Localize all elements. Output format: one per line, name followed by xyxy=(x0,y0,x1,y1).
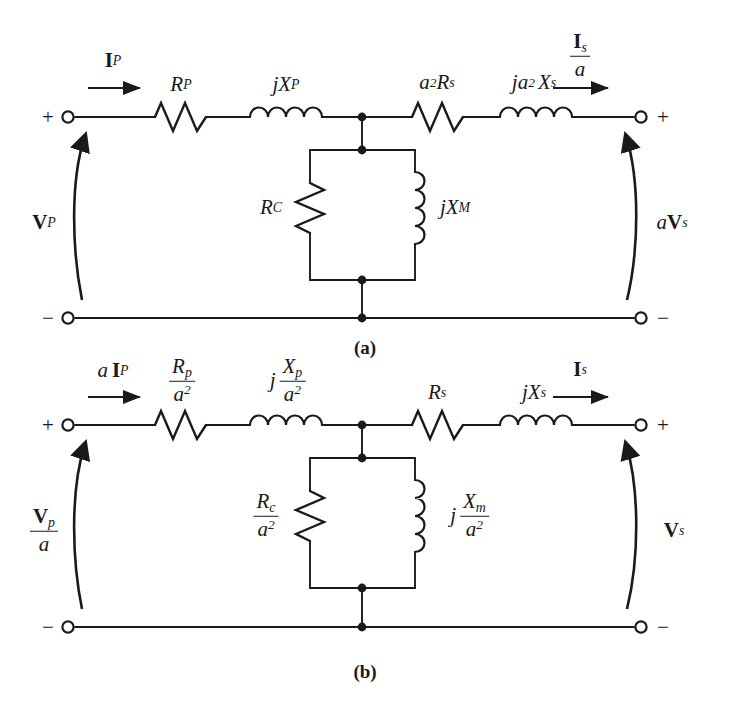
polarity-a-left-top: + xyxy=(42,105,54,130)
polarity-b-left-bottom: − xyxy=(42,615,54,640)
polarity-b-left-top: + xyxy=(42,413,54,438)
polarity-a-right-bottom: − xyxy=(657,306,669,331)
caption-a: (a) xyxy=(354,337,376,359)
label-primary-reactance-referred: j Xp a2 xyxy=(270,355,307,405)
voltage-arrow-b-left xyxy=(74,444,85,609)
circuit-figure: + − + − IP Is a VP aVs RP jXP a2Rs ja2Xs xyxy=(0,0,731,703)
current-label-a-right: Is a xyxy=(569,30,591,80)
circuit-a-wires xyxy=(75,103,634,318)
label-primary-resistance-referred: Rp a2 xyxy=(168,355,196,405)
circuit-b-wires xyxy=(75,411,634,627)
label-primary-resistance: RP xyxy=(170,74,191,95)
label-magnetizing-reactance-referred: j Xm a2 xyxy=(450,490,490,540)
terminal-a-right-bottom xyxy=(635,312,646,323)
circuit-b-terminals xyxy=(62,419,646,632)
terminal-b-right-top xyxy=(635,419,646,430)
label-core-loss-resistance-referred: Rc a2 xyxy=(253,490,280,540)
label-secondary-reactance-referred: ja2Xs xyxy=(512,72,556,93)
terminal-a-right-top xyxy=(635,111,646,122)
terminal-b-right-bottom xyxy=(635,621,646,632)
voltage-arrow-b-right xyxy=(626,444,636,609)
polarity-b-right-bottom: − xyxy=(657,615,669,640)
voltage-label-b-right: Vs xyxy=(664,520,685,541)
polarity-a-right-top: + xyxy=(657,105,669,130)
label-core-loss-resistance: RC xyxy=(260,197,282,218)
polarity-b-right-top: + xyxy=(657,413,669,438)
polarity-a-left-bottom: − xyxy=(42,306,54,331)
label-secondary-resistance: Rs xyxy=(428,382,446,403)
voltage-label-b-left: Vp a xyxy=(29,505,59,555)
current-label-b-left: aIP xyxy=(97,360,128,381)
label-secondary-resistance-referred: a2Rs xyxy=(419,72,454,93)
circuit-a-nodes xyxy=(358,113,367,323)
voltage-label-a-right: aVs xyxy=(656,212,687,233)
circuit-a-terminals xyxy=(62,111,646,323)
terminal-a-left-top xyxy=(62,111,73,122)
voltage-arrow-a-right xyxy=(626,136,636,300)
voltage-label-a-left: VP xyxy=(32,212,56,233)
current-label-a-left: IP xyxy=(105,50,122,71)
terminal-a-left-bottom xyxy=(62,312,73,323)
label-magnetizing-reactance: jXM xyxy=(440,197,470,218)
terminal-b-left-bottom xyxy=(62,621,73,632)
label-secondary-reactance: jXs xyxy=(522,382,546,403)
caption-b: (b) xyxy=(353,661,376,683)
current-label-b-right: Is xyxy=(573,359,587,380)
terminal-b-left-top xyxy=(62,419,73,430)
voltage-arrow-a-left xyxy=(74,136,85,300)
circuit-b-nodes xyxy=(358,421,367,632)
label-primary-reactance: jXP xyxy=(272,74,299,95)
